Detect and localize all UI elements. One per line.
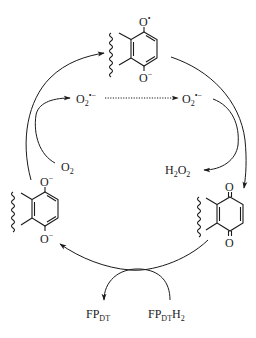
quinone-bottom-oxygen: O <box>225 236 234 250</box>
superoxide-right-label: O2•− <box>182 93 202 105</box>
flavoprotein-oxidized-label: FPDT <box>86 308 110 320</box>
hydroquinone-dianion-structure <box>12 187 59 232</box>
quinone-top-oxygen: O <box>225 180 234 194</box>
arrow-quinone-to-hydroquinone <box>60 240 208 270</box>
semiquinone-bottom-oxygen: O− <box>139 70 153 85</box>
flavoprotein-reduced-label: FPDTH2 <box>148 308 185 320</box>
hydroquinone-top-oxygen: O− <box>40 174 54 189</box>
arrow-superoxide-to-peroxide <box>204 99 238 170</box>
semiquinone-top-oxygen: O• <box>139 14 151 29</box>
quinone-structure <box>198 192 244 237</box>
hydrogen-peroxide-label: H2O2 <box>165 164 190 176</box>
redox-cycle-diagram: O• O− O− O− O O <box>0 0 256 338</box>
oxygen-label: O2 <box>61 161 74 173</box>
superoxide-left-label: O2•− <box>76 93 96 105</box>
arrow-oxygen-to-superoxide <box>35 98 70 163</box>
arrow-flavoprotein-reduction <box>104 269 170 300</box>
hydroquinone-bottom-oxygen: O− <box>40 231 54 246</box>
